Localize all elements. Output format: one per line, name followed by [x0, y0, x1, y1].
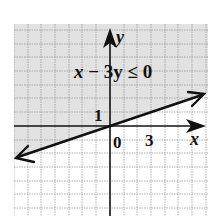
origin-label: 0	[113, 133, 122, 152]
y-tick-label: 1	[94, 106, 103, 125]
shaded-region	[14, 24, 208, 158]
inequality-label: x − 3y ≤ 0	[73, 61, 152, 82]
x-tick-label: 3	[145, 131, 154, 150]
x-axis-label: x	[189, 129, 199, 149]
inequality-graph: x − 3y ≤ 0 y x 0 3 1	[0, 0, 214, 216]
y-axis-label: y	[114, 27, 125, 47]
